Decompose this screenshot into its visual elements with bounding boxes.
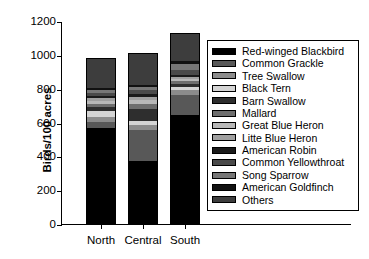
- x-axis-tick: [101, 224, 102, 229]
- legend-swatch-icon: [212, 72, 236, 79]
- bar-segment: [171, 34, 199, 61]
- y-axis-tick: [57, 90, 62, 91]
- bar-segment: [129, 130, 157, 161]
- legend-item-label: Black Tern: [242, 83, 291, 94]
- legend-item-label: Litte Blue Heron: [242, 133, 317, 144]
- legend-swatch-icon: [212, 184, 236, 191]
- y-axis-tick-label: 400: [37, 152, 56, 164]
- legend-swatch-icon: [212, 97, 236, 104]
- stacked-bar-central[interactable]: [129, 54, 157, 224]
- legend-swatch-icon: [212, 147, 236, 154]
- legend-swatch-icon: [212, 85, 236, 92]
- legend-swatch-icon: [212, 122, 236, 129]
- legend-item[interactable]: American Goldfinch: [212, 181, 353, 193]
- y-axis-tick-label: 1200: [30, 16, 56, 28]
- legend-item[interactable]: Tree Swallow: [212, 70, 353, 82]
- bar-segment: [129, 54, 157, 84]
- legend-swatch-icon: [212, 196, 236, 203]
- y-axis-tick: [57, 225, 62, 226]
- legend-swatch-icon: [212, 172, 236, 179]
- y-axis-tick: [57, 124, 62, 125]
- legend-item-label: Tree Swallow: [242, 71, 305, 82]
- y-axis-tick: [57, 191, 62, 192]
- bar-segment: [87, 59, 115, 88]
- legend-item-label: Song Sparrow: [242, 170, 309, 181]
- legend-item-label: Mallard: [242, 108, 276, 119]
- bar-segment: [129, 161, 157, 224]
- bar-segment: [171, 95, 199, 115]
- legend-item-label: Others: [242, 195, 274, 206]
- legend-item-label: Common Yellowthroat: [242, 157, 344, 168]
- legend-item[interactable]: Common Grackle: [212, 57, 353, 69]
- y-axis-tick-label: 800: [37, 84, 56, 96]
- x-axis-label-central: Central: [124, 234, 161, 246]
- y-axis-tick: [57, 157, 62, 158]
- legend-item[interactable]: Great Blue Heron: [212, 119, 353, 131]
- legend-swatch-icon: [212, 159, 236, 166]
- bar-segment: [87, 128, 115, 224]
- bar-segment: [171, 115, 199, 224]
- y-axis-tick-label: 600: [37, 118, 56, 130]
- legend-item[interactable]: Mallard: [212, 107, 353, 119]
- y-axis-tick: [57, 56, 62, 57]
- legend-item[interactable]: Black Tern: [212, 82, 353, 94]
- legend-item-label: Common Grackle: [242, 58, 324, 69]
- y-axis-tick-label: 1000: [30, 50, 56, 62]
- x-axis-tick: [143, 224, 144, 229]
- legend-item[interactable]: Litte Blue Heron: [212, 132, 353, 144]
- legend-item[interactable]: Red-winged Blackbird: [212, 45, 353, 57]
- legend-swatch-icon: [212, 60, 236, 67]
- legend-item[interactable]: Others: [212, 194, 353, 206]
- legend-item-label: Barn Swallow: [242, 96, 306, 107]
- legend-swatch-icon: [212, 110, 236, 117]
- bar-segment: [129, 109, 157, 122]
- x-axis-tick: [185, 224, 186, 229]
- x-axis-label-north: North: [87, 234, 115, 246]
- legend-swatch-icon: [212, 134, 236, 141]
- bar-segment: [87, 122, 115, 129]
- legend-item[interactable]: Barn Swallow: [212, 95, 353, 107]
- legend-item-label: American Robin: [242, 145, 317, 156]
- legend-item-label: Red-winged Blackbird: [242, 46, 344, 57]
- y-axis-tick: [57, 22, 62, 23]
- stacked-bar-north[interactable]: [87, 59, 115, 224]
- stacked-bar-south[interactable]: [171, 34, 199, 224]
- y-axis-tick-label: 0: [50, 219, 56, 231]
- legend-item-label: American Goldfinch: [242, 182, 334, 193]
- legend-item[interactable]: American Robin: [212, 144, 353, 156]
- y-axis-tick-label: 200: [37, 185, 56, 197]
- legend-item[interactable]: Song Sparrow: [212, 169, 353, 181]
- legend-item[interactable]: Common Yellowthroat: [212, 157, 353, 169]
- legend: Red-winged BlackbirdCommon GrackleTree S…: [207, 40, 359, 211]
- legend-swatch-icon: [212, 48, 236, 55]
- legend-item-label: Great Blue Heron: [242, 120, 324, 131]
- x-axis-label-south: South: [170, 234, 200, 246]
- bird-density-stacked-bar-chart: Birds/100 acres 020040060080010001200 No…: [0, 0, 369, 259]
